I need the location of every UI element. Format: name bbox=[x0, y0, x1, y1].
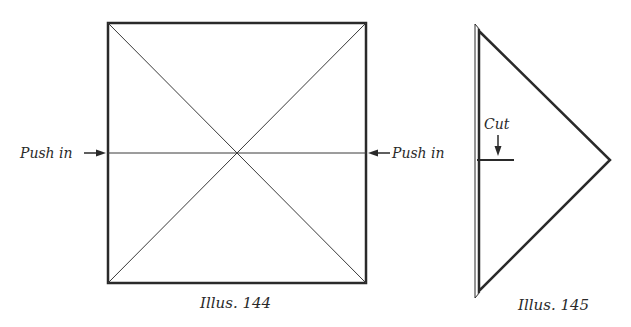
arrow-right-icon bbox=[84, 150, 106, 157]
diagram-canvas bbox=[0, 0, 631, 327]
illus-145-triangle bbox=[475, 24, 610, 298]
origami-illustrations: Push in Push in Illus. 144 Cut Illus. 14… bbox=[0, 0, 631, 327]
cut-label: Cut bbox=[484, 117, 509, 131]
arrow-down-icon bbox=[495, 135, 502, 156]
push-in-label-right: Push in bbox=[392, 146, 445, 160]
caption-illus-144: Illus. 144 bbox=[200, 296, 271, 311]
push-in-label-left: Push in bbox=[20, 146, 73, 160]
caption-illus-145: Illus. 145 bbox=[518, 298, 589, 313]
arrow-left-icon bbox=[368, 150, 390, 157]
illus-144-square bbox=[108, 23, 366, 283]
